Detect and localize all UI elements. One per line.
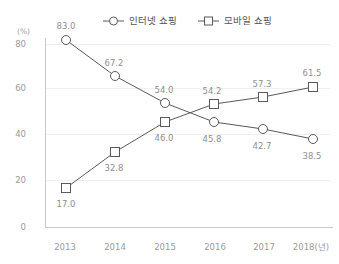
x-tick-2017: 2017	[253, 242, 275, 252]
data-label-mobile-2014: 32.8	[105, 163, 124, 173]
data-point-internet-2017	[259, 125, 268, 134]
data-point-internet-2015	[161, 99, 170, 108]
data-label-mobile-2018: 61.5	[303, 68, 322, 78]
data-point-mobile-2013	[62, 184, 71, 193]
line-chart: (%) 80 60 40 20 0 2013 2014 2015 2016 20…	[0, 0, 339, 264]
y-tick-20: 20	[15, 175, 26, 185]
legend-label-mobile: 모바일 쇼핑	[224, 15, 272, 26]
data-label-internet-2018: 38.5	[303, 151, 322, 161]
data-label-internet-2016: 45.8	[203, 134, 222, 144]
legend: 인터넷 쇼핑 모바일 쇼핑	[103, 15, 272, 26]
y-tick-80: 80	[15, 39, 26, 49]
data-point-internet-2016	[210, 118, 219, 127]
data-label-internet-2015: 54.0	[155, 85, 174, 95]
data-point-mobile-2014	[111, 148, 120, 157]
data-label-internet-2017: 42.7	[253, 141, 272, 151]
data-point-mobile-2016	[210, 100, 219, 109]
circle-marker-icon	[110, 17, 118, 25]
x-tick-2015: 2015	[154, 242, 176, 252]
legend-item-mobile[interactable]: 모바일 쇼핑	[198, 15, 272, 26]
x-tick-2016: 2016	[204, 242, 226, 252]
data-labels-internet: 83.0 67.2 54.0 45.8 42.7 38.5	[57, 21, 322, 161]
series-markers-mobile	[62, 83, 318, 193]
chart-canvas: (%) 80 60 40 20 0 2013 2014 2015 2016 20…	[0, 0, 339, 264]
data-label-internet-2014: 67.2	[105, 58, 124, 68]
legend-item-internet[interactable]: 인터넷 쇼핑	[103, 15, 177, 26]
series-line-mobile	[66, 87, 313, 188]
data-point-internet-2013	[62, 36, 71, 45]
series-line-internet	[66, 40, 313, 139]
y-tick-60: 60	[15, 83, 26, 93]
data-point-mobile-2015	[161, 118, 170, 127]
data-label-internet-2013: 83.0	[57, 21, 76, 31]
data-label-mobile-2017: 57.3	[253, 79, 272, 89]
data-label-mobile-2015: 46.0	[155, 133, 174, 143]
y-tick-0: 0	[21, 222, 26, 232]
data-point-mobile-2018	[309, 83, 318, 92]
x-tick-2013: 2013	[54, 242, 76, 252]
legend-label-internet: 인터넷 쇼핑	[129, 15, 177, 26]
data-point-internet-2018	[309, 135, 318, 144]
data-labels-mobile: 17.0 32.8 46.0 54.2 57.3 61.5	[57, 68, 322, 209]
data-label-mobile-2013: 17.0	[57, 199, 76, 209]
x-tick-2018: 2018(년)	[293, 242, 329, 252]
series-markers-internet	[62, 36, 318, 144]
data-point-internet-2014	[111, 72, 120, 81]
data-point-mobile-2017	[259, 93, 268, 102]
y-tick-40: 40	[15, 129, 26, 139]
x-tick-2014: 2014	[104, 242, 126, 252]
square-marker-icon	[205, 17, 213, 25]
y-axis-unit: (%)	[17, 27, 30, 36]
data-label-mobile-2016: 54.2	[203, 86, 222, 96]
